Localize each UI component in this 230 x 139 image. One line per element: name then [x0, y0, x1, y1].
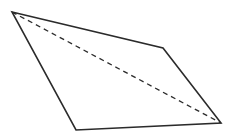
dashed-diagonal	[12, 12, 221, 123]
quadrilateral-outline	[12, 12, 221, 130]
diagram-canvas	[0, 0, 230, 139]
